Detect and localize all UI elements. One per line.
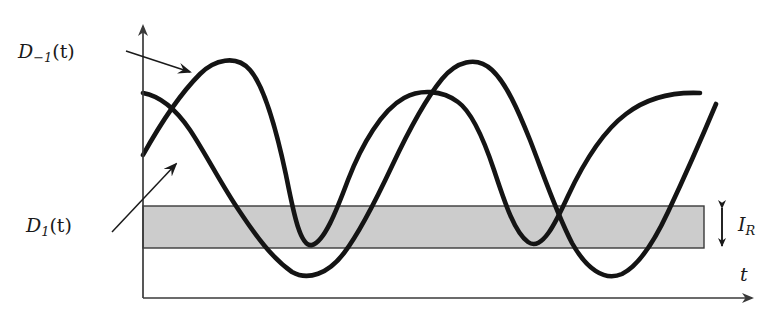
label-d-minus-1-subscript: −1 — [33, 50, 52, 65]
label-d-minus-1-argument: (t) — [52, 40, 74, 62]
label-d1-argument: (t) — [49, 214, 71, 236]
label-band-ir: IR — [738, 213, 755, 238]
figure-canvas — [0, 0, 784, 318]
label-d1-base: D — [26, 214, 41, 236]
arrow-to-d-minus-1 — [126, 51, 190, 72]
reference-interval-band — [143, 206, 704, 248]
label-x-axis-t: t — [740, 263, 748, 285]
label-ir-base: I — [738, 213, 746, 235]
figure-container: D−1(t) D1(t) IR t — [0, 0, 784, 318]
label-t-text: t — [740, 263, 748, 285]
label-ir-subscript: R — [746, 223, 756, 238]
label-curve-d1: D1(t) — [26, 214, 72, 239]
label-d-minus-1-base: D — [18, 40, 33, 62]
label-curve-d-minus-1: D−1(t) — [18, 40, 75, 65]
